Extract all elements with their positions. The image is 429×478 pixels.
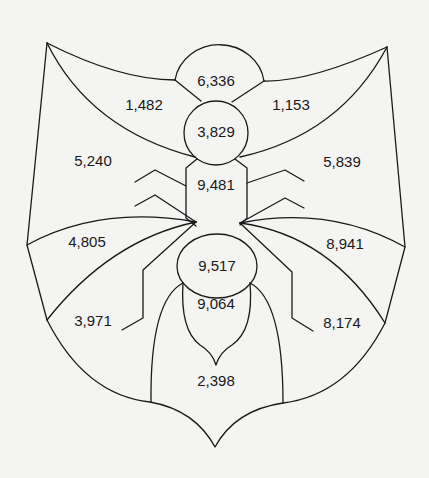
left-wing-bottom-curve <box>47 43 195 157</box>
tail-left-line <box>151 283 183 402</box>
label-head: 6,336 <box>197 72 235 89</box>
label-left-upper-wing: 1,482 <box>125 96 163 113</box>
label-left-lower-wing: 4,805 <box>68 233 106 250</box>
left-leg-1 <box>135 170 186 186</box>
left-bottom-leg <box>122 222 196 330</box>
label-left-bottom: 3,971 <box>74 312 112 329</box>
label-right-upper-wing: 1,153 <box>272 96 310 113</box>
label-right-lower-wing: 8,941 <box>326 235 364 252</box>
right-leg-2 <box>240 198 304 223</box>
label-tail: 2,398 <box>197 372 235 389</box>
label-left-outer: 5,240 <box>74 152 112 169</box>
label-abdomen-mid: 9,064 <box>197 295 235 312</box>
head-right-jaw <box>232 81 264 102</box>
label-right-bottom: 8,174 <box>323 314 361 331</box>
right-leg-1 <box>247 170 304 183</box>
right-lower-wing-top <box>240 218 405 247</box>
right-wing-bottom-curve <box>240 47 387 157</box>
label-abdomen-top: 9,517 <box>198 257 236 274</box>
left-lower-wing-top <box>27 217 196 245</box>
bug-diagram: 6,336 3,829 9,481 9,517 9,064 2,398 1,48… <box>0 0 429 478</box>
label-neck: 3,829 <box>197 123 235 140</box>
label-right-outer: 5,839 <box>323 153 361 170</box>
right-bottom-leg <box>240 223 313 331</box>
label-thorax: 9,481 <box>197 176 235 193</box>
tail-right-line <box>250 283 283 403</box>
